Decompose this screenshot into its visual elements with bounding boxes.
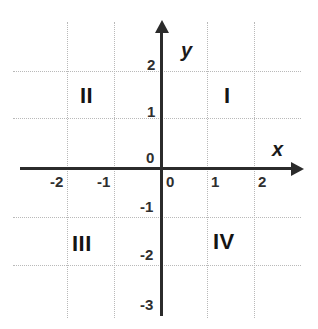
x-axis-line (20, 167, 292, 170)
y-tick-label-pos2: 2 (147, 57, 155, 72)
gridline-vertical-x-pos1 (207, 22, 208, 318)
x-axis-label: x (272, 139, 283, 159)
gridline-vertical-x-neg1 (114, 22, 115, 318)
y-tick-label-neg2: -2 (140, 247, 153, 262)
y-axis-line (160, 32, 163, 316)
x-tick-label-pos1: 1 (211, 174, 219, 189)
y-tick-label-zero: 0 (146, 150, 154, 165)
y-axis-label: y (181, 40, 192, 60)
y-tick-label-pos1: 1 (147, 104, 155, 119)
gridline-horizontal-y-pos2 (13, 71, 301, 72)
gridline-vertical-x-neg2 (67, 22, 68, 318)
quadrant-label-two: II (80, 85, 93, 107)
y-tick-label-neg3: -3 (140, 297, 153, 312)
y-tick-label-neg1: -1 (140, 199, 153, 214)
x-axis-arrowhead-icon (291, 162, 304, 176)
x-tick-label-pos2: 2 (258, 174, 266, 189)
quadrant-label-one: I (224, 85, 231, 107)
x-tick-label-neg1: -1 (97, 174, 110, 189)
x-tick-label-neg2: -2 (50, 174, 63, 189)
quadrant-label-three: III (72, 233, 92, 255)
coordinate-plane-diagram: y x -2 -1 0 1 2 2 1 0 -1 -2 -3 II I III … (0, 0, 318, 329)
gridline-horizontal-y-neg1 (13, 217, 301, 218)
gridline-horizontal-y-neg2 (13, 265, 301, 266)
gridline-vertical-x-pos2 (254, 22, 255, 318)
quadrant-label-four: IV (213, 231, 235, 253)
gridline-horizontal-y-pos1 (13, 118, 301, 119)
y-axis-arrowhead-icon (155, 20, 169, 33)
x-tick-label-zero: 0 (166, 174, 174, 189)
